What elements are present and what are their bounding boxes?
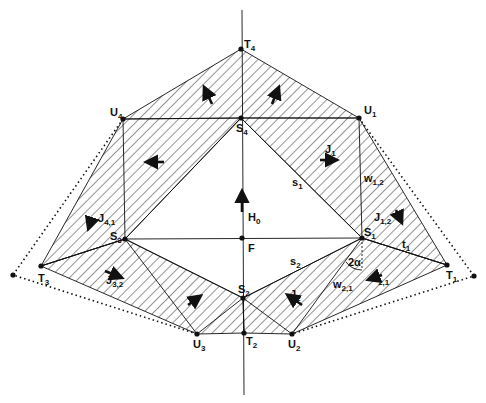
label-T1: T1 [446, 269, 458, 284]
label-F: F [248, 242, 255, 254]
label-T3: T3 [38, 272, 50, 287]
region-left-upper [41, 118, 241, 266]
label-H0: H0 [248, 211, 261, 226]
region-top [123, 49, 359, 119]
label-T4: T4 [244, 38, 256, 53]
label-T2: T2 [246, 335, 258, 350]
label-U4: U4 [110, 106, 123, 121]
label-U2: U2 [288, 338, 301, 353]
region-right-upper [241, 118, 447, 265]
label-angle-2alpha: 2α [348, 256, 361, 268]
label-s2: s2 [290, 255, 301, 270]
diagram-canvas: T4 U4 U1 S4 S3 S1 F T3 T1 S2 T2 U3 U2 J1… [0, 0, 486, 403]
label-S4: S4 [236, 122, 248, 137]
label-U3: U3 [193, 338, 206, 353]
label-U1: U1 [364, 104, 377, 119]
